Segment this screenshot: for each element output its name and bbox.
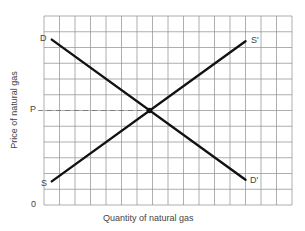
demand-start-label: D — [40, 34, 47, 43]
equilibrium-point — [147, 108, 153, 114]
supply-end-label: S' — [251, 36, 259, 45]
origin-label: 0 — [31, 200, 36, 209]
demand-end-label: D' — [250, 176, 258, 185]
supply-start-label: S — [41, 179, 47, 188]
x-axis-label: Quantity of natural gas — [103, 213, 194, 223]
y-axis-label: Price of natural gas — [9, 71, 19, 149]
price-label: P — [30, 105, 36, 114]
